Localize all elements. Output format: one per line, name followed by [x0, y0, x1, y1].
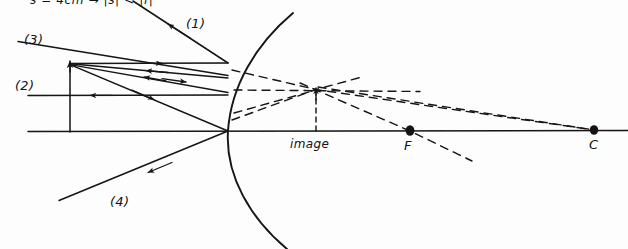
- ray-4-reflected: [59, 131, 228, 201]
- ray-2-line: [28, 95, 228, 96]
- virtual-ray-v6-to-C: [318, 87, 594, 130]
- ray-3-label: (3): [24, 32, 43, 47]
- optics-diagram-svg: [0, 0, 628, 249]
- virtual-ray-v3: [234, 90, 316, 113]
- center-of-curvature-dot: [590, 125, 598, 135]
- ray-1-label: (1): [186, 16, 205, 31]
- center-of-curvature-label: C: [589, 137, 598, 152]
- ray-4-reflected-arrow: [148, 163, 172, 173]
- image-label: image: [290, 137, 329, 151]
- virtual-ray-v5: [232, 77, 362, 120]
- ray-diagram-canvas: s = 4cm → |s| < |f| (1) (3) (2) (4) imag…: [0, 0, 628, 249]
- ray-4-label: (4): [110, 194, 129, 209]
- ray-2-label: (2): [15, 78, 34, 93]
- equation-annotation: s = 4cm → |s| < |f|: [30, 0, 210, 7]
- ray-3-line: [18, 42, 228, 76]
- virtual-ray-group: [232, 70, 594, 161]
- focal-point-label: F: [404, 138, 411, 153]
- optical-axis: [28, 131, 628, 132]
- focal-point-dot: [406, 125, 415, 135]
